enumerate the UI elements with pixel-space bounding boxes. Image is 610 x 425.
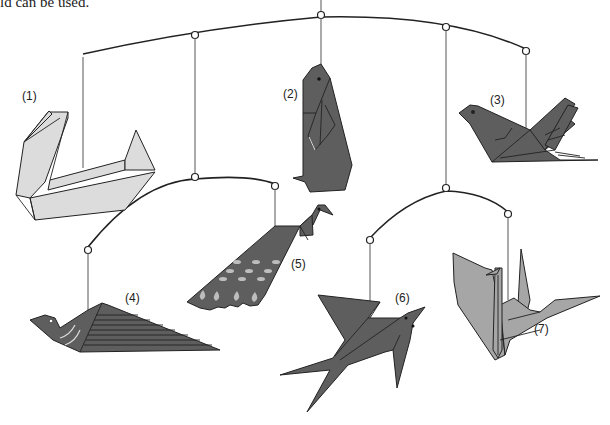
figure-pigeon [459,98,598,162]
ring-top-center [318,12,325,19]
top-bar [83,17,526,54]
label-1: (1) [22,89,37,103]
label-2: (2) [283,87,298,101]
figure-crane [453,249,600,360]
label-6: (6) [395,291,410,305]
ring-right-subbar-right [505,211,512,218]
ring-right-subbar-left [367,237,374,244]
mobile-illustration: (1) (2) (3) [0,0,610,425]
ring-left-subbar-right [272,183,279,190]
ring-left-subbar-left [85,247,92,254]
figure-swan [16,111,155,220]
label-3: (3) [490,93,505,107]
ring-right-subbar-top [443,185,450,192]
label-7: (7) [534,322,549,336]
label-5: (5) [291,257,306,271]
ring-top-right [523,48,530,55]
figure-peacock [187,205,333,310]
ring-left-subbar-top [192,174,199,181]
figure-duck [30,303,220,352]
figure-swallow [280,295,425,412]
figure-penguin [293,64,352,192]
ring-top-right-inner [443,24,450,31]
label-4: (4) [125,291,140,305]
right-subbar [370,191,508,238]
ring-top-left-inner [192,32,199,39]
